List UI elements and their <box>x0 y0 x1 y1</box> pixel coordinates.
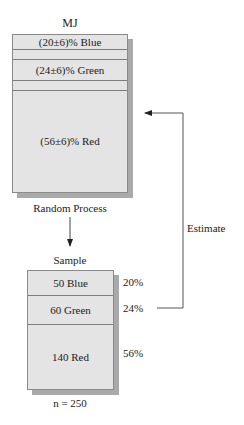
population-row-blue: (20±6)% Blue <box>13 35 127 50</box>
population-title: MJ <box>50 16 90 31</box>
sample-percent-red: 56% <box>123 347 143 359</box>
sample-size-label: n = 250 <box>40 397 100 409</box>
sample-row-blue: 50 Blue <box>28 271 113 296</box>
sample-row-green: 60 Green <box>28 295 113 325</box>
random-process-label: Random Process <box>20 202 120 214</box>
sample-percent-blue: 20% <box>123 276 143 288</box>
estimate-arrow <box>145 113 183 308</box>
sample-row-red: 140 Red <box>28 324 113 389</box>
estimate-label: Estimate <box>187 222 237 234</box>
population-row-red: (56±6)% Red <box>13 90 127 192</box>
sample-percent-green: 24% <box>123 302 143 314</box>
sample-box: 50 Blue 60 Green 140 Red <box>27 270 114 390</box>
population-box: (20±6)% Blue (24±6)% Green (56±6)% Red <box>12 34 128 193</box>
population-row-green: (24±6)% Green <box>13 59 127 81</box>
sample-title: Sample <box>40 254 100 266</box>
